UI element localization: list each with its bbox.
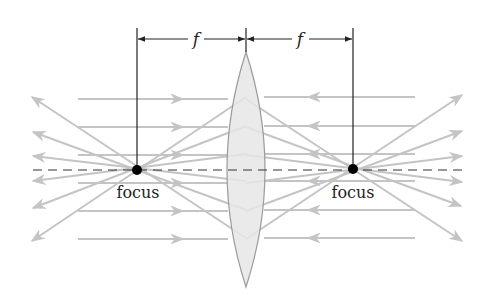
focal-length-label-left: f [191,29,202,49]
right-focus-label: focus [331,183,374,202]
left-parallel-rays [78,99,228,239]
lens-diagram: f f focus focus [0,0,488,299]
left-focus-label: focus [116,183,159,202]
right-focus-dot [348,164,358,174]
focal-length-label-right: f [295,29,306,49]
left-focus-dot [132,165,142,175]
